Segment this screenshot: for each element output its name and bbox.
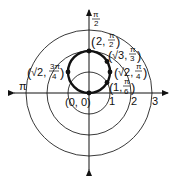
svg-text:): ) bbox=[131, 80, 135, 95]
point-label-origin: (0, 0) bbox=[65, 96, 91, 108]
svg-text:2,: 2, bbox=[96, 35, 105, 47]
svg-text:π: π bbox=[124, 77, 130, 86]
tick-label-3: 3 bbox=[152, 95, 158, 107]
angle-label-pi-half: π 2 bbox=[92, 10, 100, 28]
polar-graph: π 2 π 1 2 3 (0, 0) ( 2, π 2 ) ( √3, π 3 … bbox=[0, 0, 178, 176]
point-sqrt2-3pi4 bbox=[66, 70, 71, 75]
svg-text:): ) bbox=[116, 34, 120, 49]
tick-label-1: 1 bbox=[109, 95, 115, 107]
svg-text:): ) bbox=[137, 48, 141, 63]
angle-label-pi: π bbox=[19, 80, 27, 92]
svg-text:3: 3 bbox=[130, 54, 135, 63]
svg-text:): ) bbox=[60, 65, 64, 80]
svg-text:1,: 1, bbox=[113, 81, 122, 93]
svg-text:4: 4 bbox=[52, 72, 57, 81]
svg-text:3π: 3π bbox=[50, 62, 60, 71]
svg-text:√3,: √3, bbox=[112, 49, 127, 61]
tick-label-2: 2 bbox=[131, 95, 137, 107]
svg-text:): ) bbox=[143, 65, 147, 80]
svg-text:π: π bbox=[109, 31, 115, 40]
svg-text:π: π bbox=[130, 45, 136, 54]
svg-text:√2,: √2, bbox=[31, 66, 46, 78]
point-sqrt2-pi4 bbox=[108, 70, 113, 75]
svg-text:2: 2 bbox=[94, 19, 99, 28]
point-2-pi2 bbox=[87, 49, 92, 54]
point-origin bbox=[87, 91, 92, 96]
svg-text:6: 6 bbox=[124, 87, 129, 96]
point-label-2-pi2: ( 2, π 2 ) bbox=[91, 31, 120, 49]
svg-text:π: π bbox=[136, 62, 142, 71]
svg-text:π: π bbox=[93, 10, 99, 19]
svg-text:4: 4 bbox=[136, 72, 141, 81]
point-label-sqrt2-pi4: ( √2, π 4 ) bbox=[114, 62, 147, 81]
